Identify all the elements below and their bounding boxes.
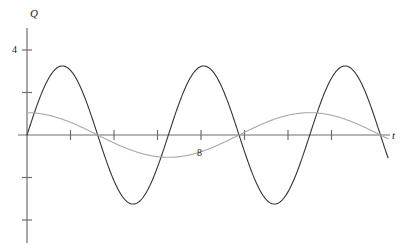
chart-container: Q t 4 8 [0,0,409,251]
x-axis-label: t [392,130,395,141]
x-tick-label-8: 8 [197,148,202,158]
y-axis-label: Q [30,8,38,19]
y-tick-label-4: 4 [12,45,17,55]
plot-area [0,0,409,251]
